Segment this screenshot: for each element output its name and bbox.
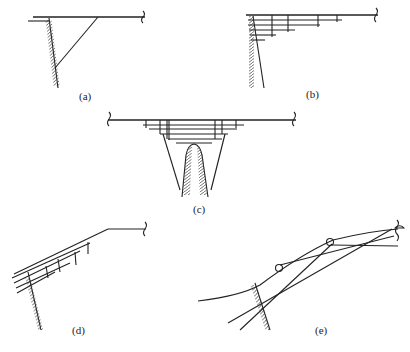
panel-a xyxy=(28,11,145,88)
structural-diagram xyxy=(0,0,410,352)
panel-e xyxy=(198,220,404,330)
panel-c xyxy=(108,112,297,197)
label-a: (a) xyxy=(79,90,91,102)
panel-b xyxy=(246,8,378,88)
panel-d xyxy=(12,222,147,330)
label-e: (e) xyxy=(315,324,327,336)
label-d: (d) xyxy=(72,324,85,336)
label-b: (b) xyxy=(306,88,319,100)
label-c: (c) xyxy=(193,203,205,215)
